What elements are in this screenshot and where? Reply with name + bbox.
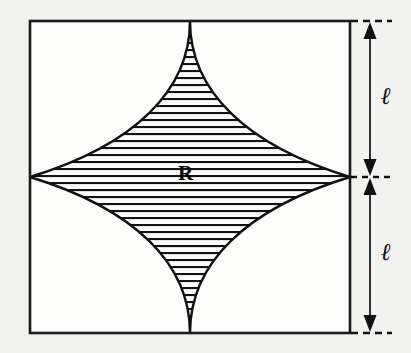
figure-canvas: R ℓ ℓ xyxy=(0,0,411,353)
dimension-label-lower: ℓ xyxy=(381,240,391,264)
region-label: R xyxy=(178,163,194,184)
figure-drawing xyxy=(0,0,411,353)
dimension-label-upper: ℓ xyxy=(381,84,391,108)
